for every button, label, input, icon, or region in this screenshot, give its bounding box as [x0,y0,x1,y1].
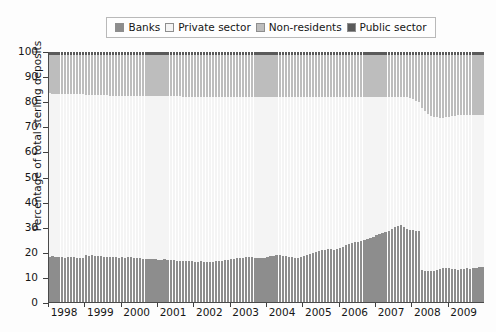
bar-segment-public-sector [173,52,175,55]
bar-segment-banks [218,261,220,303]
bar-segment-banks [212,262,214,303]
bar-segment-non-residents [351,55,353,98]
bar-segment-public-sector [478,52,480,55]
x-tick-label: 2001 [160,306,187,318]
bar-segment-private-sector [418,102,420,231]
bar-segment-private-sector [212,97,214,261]
bar-segment-public-sector [100,52,102,55]
bar-segment-private-sector [318,97,320,251]
stacked-bar [315,52,317,303]
bar-segment-banks [263,258,265,303]
bar-segment-private-sector [151,96,153,259]
bar-segment-public-sector [221,52,223,55]
bar-segment-private-sector [227,97,229,260]
bar-segment-non-residents [312,55,314,98]
x-tick-label: 2000 [123,306,150,318]
bar-segment-non-residents [170,55,172,97]
bar-segment-banks [215,261,217,303]
stacked-bar [160,52,162,303]
bar-segment-banks [67,257,69,303]
bar-segment-private-sector [48,93,50,256]
y-tick-mark [43,77,48,78]
bar-segment-private-sector [415,101,417,231]
bar-segment-non-residents [257,55,259,98]
legend-item-banks[interactable]: Banks [115,22,160,33]
bar-segment-public-sector [469,52,471,55]
bar-segment-non-residents [321,55,323,98]
legend-item-public-sector[interactable]: Public sector [347,22,427,33]
bar-segment-private-sector [112,96,114,257]
x-tick-mark [121,303,122,307]
bar-segment-private-sector [173,96,175,260]
bar-segment-banks [79,258,81,303]
bar-segment-private-sector [106,95,108,256]
bar-segment-public-sector [130,52,132,55]
bar-segment-banks [303,256,305,303]
bar-segment-private-sector [51,94,53,256]
bar-segment-public-sector [118,52,120,55]
stacked-bar [73,52,75,303]
bar-segment-public-sector [275,52,277,55]
bar-segment-non-residents [185,55,187,97]
bar-segment-banks [142,259,144,303]
bar-segment-banks [70,257,72,303]
bar-segment-public-sector [285,52,287,55]
bar-segment-public-sector [106,52,108,55]
bar-segment-banks [430,271,432,303]
bar-segment-public-sector [430,52,432,55]
bar-segment-non-residents [288,55,290,98]
legend-item-private-sector[interactable]: Private sector [165,22,251,33]
stacked-bar [170,52,172,303]
y-tick-mark [43,253,48,254]
bar-segment-private-sector [127,96,129,257]
bar-segment-non-residents [154,55,156,97]
stacked-bar [394,52,396,303]
stacked-bar [291,52,293,303]
bar-segment-non-residents [315,55,317,98]
bar-segment-public-sector [415,52,417,55]
bar-segment-public-sector [375,52,377,55]
stacked-bar [282,52,284,303]
bar-segment-public-sector [348,52,350,55]
x-tick-label: 2002 [196,306,223,318]
bar-segment-public-sector [242,52,244,55]
bar-segment-non-residents [342,55,344,98]
legend-item-non-residents[interactable]: Non-residents [256,22,342,33]
bar-segment-banks [315,252,317,303]
y-tick-mark [43,278,48,279]
bar-segment-non-residents [124,55,126,96]
stacked-bar [260,52,262,303]
bar-segment-public-sector [197,52,199,55]
bar-segment-non-residents [291,55,293,98]
stacked-bar [48,52,50,303]
bar-segment-public-sector [363,52,365,55]
y-tick-label: 20 [0,246,38,258]
bar-segment-banks [260,258,262,303]
bar-segment-non-residents [145,55,147,97]
bar-segment-banks [324,250,326,303]
bar-segment-public-sector [251,52,253,55]
bar-segment-public-sector [112,52,114,55]
bar-segment-private-sector [157,96,159,259]
bar-segment-non-residents [460,55,462,115]
bar-segment-private-sector [109,96,111,257]
bar-segment-non-residents [200,55,202,97]
bar-segment-public-sector [424,52,426,55]
stacked-bar [61,52,63,303]
bar-segment-public-sector [248,52,250,55]
bar-segment-non-residents [448,55,450,117]
bar-segment-non-residents [166,55,168,97]
bar-segment-private-sector [391,97,393,229]
bar-segment-banks [203,262,205,303]
bar-segment-public-sector [91,52,93,55]
bar-segment-private-sector [306,97,308,255]
bar-segment-public-sector [209,52,211,55]
bar-segment-banks [54,257,56,303]
bar-segment-public-sector [272,52,274,55]
bar-segment-public-sector [115,52,117,55]
y-tick-label: 10 [0,271,38,283]
bar-segment-non-residents [112,55,114,96]
bar-segment-private-sector [91,95,93,255]
bar-segment-non-residents [245,55,247,98]
bar-segment-private-sector [166,96,168,259]
